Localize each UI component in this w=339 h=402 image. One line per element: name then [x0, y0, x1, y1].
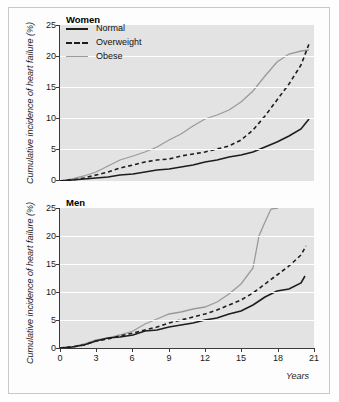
x-tick-label-21: 21: [306, 354, 322, 363]
y-axis-label-men: Cumulative incidence of heart failure (%…: [25, 202, 35, 364]
x-tickmark-12: [205, 349, 206, 352]
y-tick-men-0: 0: [38, 344, 56, 353]
x-tickmark-0: [60, 349, 61, 352]
legend-label-overweight: Overweight: [96, 36, 142, 49]
panel-men: Cumulative incidence of heart failure (%…: [0, 194, 339, 374]
y-axis-label-women: Cumulative incidence of heart failure (%…: [25, 22, 35, 184]
y-tick-women-25: 25: [38, 21, 56, 30]
x-tick-label-6: 6: [124, 354, 140, 363]
curves-men: [60, 208, 314, 348]
x-tick-label-0: 0: [52, 354, 68, 363]
curve-men-overweight: [60, 246, 306, 348]
y-tick-men-5: 5: [38, 316, 56, 325]
plot-area-men: [60, 208, 314, 348]
x-tick-label-15: 15: [233, 354, 249, 363]
y-tick-women-5: 5: [38, 145, 56, 154]
y-tick-women-15: 15: [38, 83, 56, 92]
x-axis-label: Years: [286, 371, 309, 381]
panel-title-men: Men: [66, 198, 85, 208]
x-tick-label-9: 9: [161, 354, 177, 363]
y-tick-men-15: 15: [38, 260, 56, 269]
gridline-men-15: [60, 264, 314, 265]
legend-label-normal: Normal: [96, 22, 125, 35]
legend-label-obese: Obese: [96, 50, 123, 63]
y-tick-women-0: 0: [38, 176, 56, 185]
gridline-men-10: [60, 292, 314, 293]
x-tickmark-15: [241, 349, 242, 352]
gridline-women-5: [60, 149, 314, 150]
x-tickmark-3: [96, 349, 97, 352]
curve-women-overweight: [60, 44, 309, 181]
figure-root: Cumulative incidence of heart failure (%…: [0, 0, 339, 402]
legend-swatch-normal-icon: [66, 28, 88, 30]
x-tick-label-3: 3: [88, 354, 104, 363]
x-tick-label-12: 12: [197, 354, 213, 363]
y-tick-men-10: 10: [38, 288, 56, 297]
gridline-men-5: [60, 320, 314, 321]
gridline-men-20: [60, 236, 314, 237]
x-tickmark-6: [132, 349, 133, 352]
panel-women: Cumulative incidence of heart failure (%…: [0, 8, 339, 194]
y-tick-women-20: 20: [38, 52, 56, 61]
y-tick-men-20: 20: [38, 232, 56, 241]
x-tick-label-18: 18: [270, 354, 286, 363]
gridline-women-10: [60, 118, 314, 119]
y-tick-women-10: 10: [38, 114, 56, 123]
legend-swatch-obese-icon: [66, 56, 88, 57]
curve-women-obese: [60, 50, 309, 181]
gridline-women-15: [60, 87, 314, 88]
legend-swatch-overweight-icon: [66, 42, 88, 44]
x-tickmark-9: [169, 349, 170, 352]
x-axis-spine-men: [59, 348, 315, 349]
x-tickmark-21: [314, 349, 315, 352]
x-tickmark-18: [278, 349, 279, 352]
y-tick-men-25: 25: [38, 204, 56, 213]
